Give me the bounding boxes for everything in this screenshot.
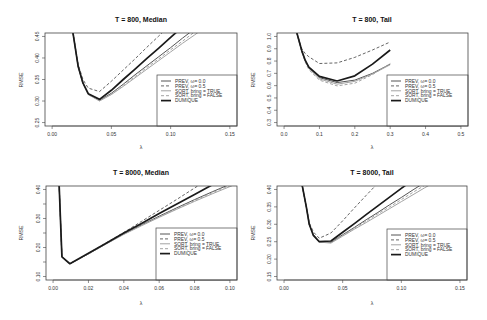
x-tick-label: 0.08 [190, 285, 200, 291]
y-tick-label: 0.40 [35, 184, 41, 194]
legend-label: DUMIQUE [175, 98, 199, 103]
x-tick-label: 0.0 [281, 131, 288, 137]
y-tick-label: 0.45 [34, 31, 40, 41]
x-axis-label: λ [371, 144, 374, 150]
y-tick-label: 0.30 [266, 219, 272, 229]
y-tick-label: 0.25 [266, 237, 272, 247]
legend: PREV, ω= 0.0PREV, ω= 0.5SORT, bring = TR… [387, 75, 468, 126]
panel-t800-median: T = 800, Median RMSE λ 0.000.050.100.150… [18, 0, 237, 150]
y-tick-label: 1.0 [266, 33, 272, 40]
x-tick-label: 0.10 [166, 131, 176, 137]
plot-area [297, 33, 390, 86]
y-tick-label: 0.15 [266, 271, 272, 281]
y-tick-label: 0.6 [266, 82, 272, 89]
x-tick-label: 0.15 [455, 285, 465, 291]
panel-title: T = 8000, Median [113, 169, 169, 177]
panel-title: T = 800, Median [115, 16, 167, 24]
plot-area [302, 121, 437, 244]
figure: T = 800, Median RMSE λ 0.000.050.100.150… [0, 0, 487, 320]
series-line [297, 33, 390, 81]
panel-title: T = 8000, Tail [350, 169, 393, 177]
y-tick-label: 0.35 [34, 74, 40, 84]
x-tick-label: 0.00 [47, 131, 57, 137]
x-axis-label: λ [140, 144, 143, 150]
y-axis-label: RMSE [18, 72, 24, 88]
y-tick-label: 0.8 [266, 57, 272, 64]
x-tick-label: 0.15 [225, 131, 235, 137]
y-tick-label: 0.20 [35, 242, 41, 252]
x-tick-label: 0.05 [338, 285, 348, 291]
series-line [297, 33, 390, 83]
y-tick-label: 0.30 [34, 96, 40, 106]
y-axis: 0.150.200.250.300.350.40 [266, 184, 277, 281]
y-tick-label: 0.9 [266, 45, 272, 52]
x-tick-label: 0.5 [457, 131, 464, 137]
x-axis: 0.000.050.100.15 [47, 126, 235, 137]
y-axis: 0.100.200.300.40 [35, 184, 46, 281]
x-axis: 0.000.050.100.15 [279, 280, 465, 291]
x-axis-label: λ [140, 300, 143, 306]
y-axis-label: RMSE [250, 72, 256, 88]
y-tick-label: 0.40 [266, 184, 272, 194]
x-tick-label: 0.2 [351, 131, 358, 137]
x-tick-label: 0.00 [279, 285, 289, 291]
y-tick-label: 0.3 [266, 119, 272, 126]
x-tick-label: 0.05 [107, 131, 117, 137]
panel-t800-tail: T = 800, Tail RMSE λ 0.00.10.20.30.40.50… [250, 16, 468, 150]
x-axis-label: λ [371, 300, 374, 306]
y-tick-label: 0.10 [35, 271, 41, 281]
x-tick-label: 0.06 [154, 285, 164, 291]
y-axis: 0.30.40.50.60.70.80.91.0 [266, 33, 277, 126]
panel-t8000-median: T = 8000, Median RMSE λ 0.000.020.040.06… [18, 154, 248, 306]
legend: PREV, ω= 0.0PREV, ω= 0.5SORT, bring = TR… [387, 229, 467, 280]
y-axis-label: RMSE [18, 225, 24, 241]
x-axis: 0.000.020.040.060.080.10 [48, 280, 235, 291]
x-tick-label: 0.1 [316, 131, 323, 137]
y-tick-label: 0.30 [35, 213, 41, 223]
x-tick-label: 0.10 [225, 285, 235, 291]
legend: PREV, ω= 0.0PREV, ω= 0.5SORT, bring = TR… [157, 75, 237, 126]
series-line [297, 33, 390, 64]
legend-label: DUMIQUE [174, 251, 198, 256]
x-axis: 0.00.10.20.30.40.5 [281, 126, 465, 137]
x-tick-label: 0.00 [48, 285, 58, 291]
series-line [297, 33, 390, 86]
legend: PREV, ω= 0.0PREV, ω= 0.5SORT, bring = TR… [156, 228, 237, 280]
y-axis: 0.250.300.350.400.45 [34, 31, 45, 127]
y-tick-label: 0.35 [266, 202, 272, 212]
x-tick-label: 0.04 [119, 285, 129, 291]
x-tick-label: 0.10 [396, 285, 406, 291]
x-tick-label: 0.02 [84, 285, 94, 291]
y-tick-label: 0.7 [266, 70, 272, 77]
x-tick-label: 0.3 [387, 131, 394, 137]
legend-label: DUMIQUE [405, 98, 429, 103]
panel-title: T = 800, Tail [352, 16, 391, 24]
y-tick-label: 0.40 [34, 53, 40, 63]
y-axis-label: RMSE [250, 225, 256, 241]
y-tick-label: 0.25 [34, 117, 40, 127]
y-tick-label: 0.20 [266, 254, 272, 264]
y-tick-label: 0.4 [266, 107, 272, 114]
legend-label: DUMIQUE [405, 252, 429, 257]
y-tick-label: 0.5 [266, 94, 272, 101]
panel-t8000-tail: T = 8000, Tail RMSE λ 0.000.050.100.150.… [250, 121, 467, 306]
x-tick-label: 0.4 [422, 131, 429, 137]
